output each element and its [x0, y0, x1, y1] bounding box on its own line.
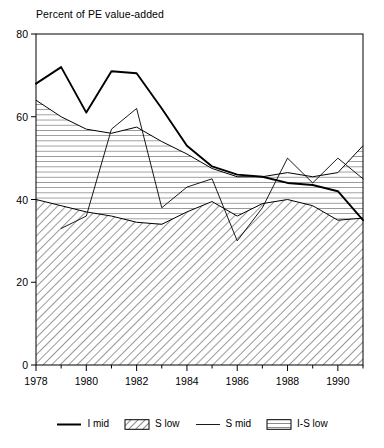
legend-swatch-line-thin — [195, 419, 221, 430]
legend-label-i-s-low: I-S low — [297, 419, 328, 429]
legend-label-s-mid: S mid — [226, 419, 252, 429]
legend-item-s-low: S low — [124, 419, 179, 430]
plot-area: 020406080 1978198019821984198619881990 — [0, 0, 384, 400]
x-axis-tick-label: 1986 — [226, 375, 250, 387]
legend-item-s-mid: S mid — [195, 419, 252, 430]
x-axis-labels: 1978198019821984198619881990 — [24, 375, 349, 387]
y-axis-labels: 020406080 — [16, 28, 28, 371]
chart-legend: I mid S low S mid I-S low — [0, 412, 384, 436]
chart-svg: 020406080 1978198019821984198619881990 — [0, 0, 384, 400]
y-axis-tick-label: 80 — [16, 28, 28, 40]
y-axis-tick-label: 40 — [16, 194, 28, 206]
legend-label-s-low: S low — [155, 419, 179, 429]
legend-label-i-mid: I mid — [87, 419, 109, 429]
y-axis-tick-label: 0 — [22, 359, 28, 371]
x-axis-tick-label: 1978 — [24, 375, 48, 387]
area-series-group — [36, 100, 363, 365]
x-axis-tick-label: 1982 — [125, 375, 149, 387]
legend-swatch-hatch-horizontal — [266, 419, 292, 430]
x-axis-tick-label: 1988 — [276, 375, 300, 387]
legend-swatch-hatch-diagonal — [124, 419, 150, 430]
legend-item-i-s-low: I-S low — [266, 419, 328, 430]
legend-item-i-mid: I mid — [56, 419, 109, 430]
chart-page: Percent of PE value-added 0 — [0, 0, 384, 448]
x-axis-tick-label: 1984 — [175, 375, 199, 387]
x-axis-tick-label: 1990 — [326, 375, 350, 387]
x-axis-tick-label: 1980 — [75, 375, 99, 387]
y-axis-tick-label: 20 — [16, 276, 28, 288]
legend-swatch-line-thick — [56, 419, 82, 430]
y-axis-tick-label: 60 — [16, 111, 28, 123]
